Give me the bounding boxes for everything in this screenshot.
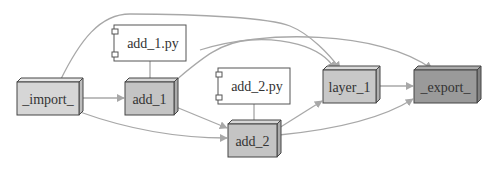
node-label: _export_ xyxy=(420,80,472,95)
box-side-face xyxy=(79,78,83,115)
node-label: add_2 xyxy=(235,134,269,149)
box-top-face xyxy=(323,66,380,70)
node-label: add_1.py xyxy=(127,36,179,51)
node-add-2-py[interactable]: add_2.py xyxy=(216,68,290,104)
box-side-face xyxy=(477,66,481,103)
node-label: add_1 xyxy=(132,92,166,107)
node-import[interactable]: _import_ xyxy=(17,78,83,115)
edge-import-to-add-2 xyxy=(80,112,227,138)
edge-add-2-to-export xyxy=(279,99,413,135)
edge-add-1-to-add-2 xyxy=(176,107,227,128)
edge-import-to-layer-1 xyxy=(60,14,340,81)
component-tab-icon xyxy=(112,29,118,34)
dependency-diagram: _import_add_1add_1.pyadd_2add_2.pylayer_… xyxy=(0,0,496,169)
box-side-face xyxy=(174,78,178,115)
node-label: _import_ xyxy=(21,92,74,107)
node-label: add_2.py xyxy=(231,79,283,94)
node-layer-1[interactable]: layer_1 xyxy=(323,66,380,103)
box-side-face xyxy=(376,66,380,103)
edge-add-2-to-layer-1 xyxy=(279,101,322,128)
component-tab-icon xyxy=(216,95,222,100)
node-label: layer_1 xyxy=(329,80,371,95)
box-side-face xyxy=(277,120,281,157)
box-top-face xyxy=(125,78,178,82)
nodes-layer: _import_add_1add_1.pyadd_2add_2.pylayer_… xyxy=(17,25,481,157)
node-add-1[interactable]: add_1 xyxy=(125,78,178,115)
node-export[interactable]: _export_ xyxy=(414,66,481,103)
box-top-face xyxy=(414,66,481,70)
node-add-2[interactable]: add_2 xyxy=(228,120,281,157)
box-top-face xyxy=(228,120,281,124)
node-add-1-py[interactable]: add_1.py xyxy=(112,25,186,61)
edge-add-1-to-export xyxy=(200,37,432,69)
component-tab-icon xyxy=(112,52,118,57)
box-top-face xyxy=(17,78,83,82)
component-tab-icon xyxy=(216,72,222,77)
